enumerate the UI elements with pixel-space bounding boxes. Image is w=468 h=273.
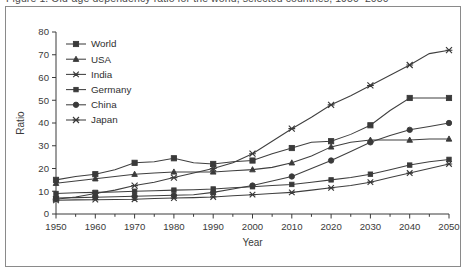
chart-legend: WorldUSAIndiaGermanyChinaJapan [66,38,131,125]
legend-label: World [91,38,116,49]
data-point-marker [446,120,451,125]
x-axis-tick-label: 1950 [45,221,66,232]
data-point-marker [131,183,138,189]
y-axis-title: Ratio [15,111,26,135]
legend-label: Germany [91,84,131,95]
y-axis-tick-label: 80 [38,26,49,37]
x-axis-tick-label: 1990 [203,221,224,232]
legend-item-germany[interactable]: Germany [66,84,131,95]
data-point-marker [407,127,412,132]
data-point-marker [132,194,137,199]
data-point-marker [368,140,373,145]
x-axis-tick-label: 2020 [320,221,341,232]
data-point-marker [407,95,412,100]
data-point-marker [368,123,373,128]
data-point-marker [329,178,333,182]
y-axis-tick-label: 50 [38,95,49,106]
data-point-marker [447,157,451,161]
data-point-marker [408,163,412,167]
data-point-marker [367,179,373,185]
figure-caption-strip: Figure 1. Old-age dependency ratio for t… [0,0,468,5]
data-point-marker [172,188,176,192]
x-axis-tick-label: 2030 [360,221,381,232]
figure-caption: Figure 1. Old-age dependency ratio for t… [6,0,389,4]
data-point-marker [73,117,80,123]
data-point-marker [290,182,294,186]
data-point-marker [249,151,256,157]
data-point-marker [446,47,453,53]
legend-label: Japan [91,114,118,125]
data-point-marker [328,102,335,108]
y-axis-tick-label: 70 [38,49,49,60]
data-point-marker [367,82,374,88]
x-axis-tick-label: 2010 [281,221,302,232]
y-axis-tick-label: 30 [38,140,49,151]
data-point-marker [250,158,255,163]
data-point-marker [289,145,294,150]
x-axis-tick-label: 2000 [242,221,263,232]
y-axis-tick-label: 20 [38,163,49,174]
data-point-marker [328,158,333,163]
data-point-marker [211,190,216,195]
data-point-marker [407,170,413,176]
data-point-marker [73,41,78,46]
data-point-marker [73,72,79,78]
x-axis-tick-label: 1970 [124,221,145,232]
x-axis-tick-label: 2050 [438,221,459,232]
data-point-marker [249,192,255,198]
legend-item-usa[interactable]: USA [66,54,112,65]
figure-frame: 0102030405060708019501960197019801990200… [5,6,461,267]
x-axis-tick-label: 1960 [85,221,106,232]
legend-label: China [91,99,117,110]
figure-container: Figure 1. Old-age dependency ratio for t… [0,0,468,273]
data-point-marker [171,156,176,161]
x-axis-tick-label: 2040 [399,221,420,232]
line-chart: 0102030405060708019501960197019801990200… [6,7,460,266]
data-point-marker [289,190,295,196]
data-point-marker [211,161,216,166]
data-point-marker [289,174,294,179]
data-point-marker [132,189,136,193]
y-axis-tick-label: 0 [44,208,49,219]
data-point-marker [171,193,176,198]
data-point-marker [74,87,78,91]
legend-item-india[interactable]: India [66,69,113,80]
legend-item-japan[interactable]: Japan [66,114,118,125]
y-axis-tick-label: 40 [38,117,49,128]
legend-label: India [91,69,113,80]
y-axis-tick-label: 10 [38,186,49,197]
x-axis-title: Year [242,237,263,248]
y-axis-tick-label: 60 [38,72,49,83]
data-point-marker [288,126,295,132]
data-point-marker [368,172,372,176]
data-point-marker [132,160,137,165]
data-point-marker [406,62,413,68]
legend-label: USA [91,54,112,65]
data-point-marker [250,183,255,188]
legend-item-world[interactable]: World [66,38,116,49]
data-point-marker [171,175,178,181]
data-point-marker [328,185,334,191]
legend-item-china[interactable]: China [66,99,117,110]
data-point-marker [446,95,451,100]
x-axis-tick-label: 1980 [163,221,184,232]
data-point-marker [73,102,78,107]
